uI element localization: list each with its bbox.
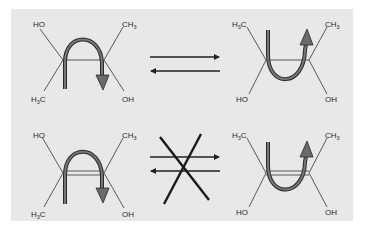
label-ch3: CH3: [122, 131, 137, 141]
rotation-arrow-icon: [268, 141, 313, 190]
label-ch3: CH3: [325, 131, 340, 141]
stereochemistry-diagram: HO CH3 H3C OH H3C CH3 HO OH: [0, 0, 366, 231]
cross-out-line: [160, 137, 209, 200]
rotation-arrow-icon: [65, 152, 109, 204]
row1-right-molecule: H3C CH3 HO OH: [232, 20, 340, 104]
label-oh: OH: [122, 95, 134, 104]
cross-out-line: [164, 134, 201, 204]
rotation-arrow-icon: [65, 40, 109, 91]
row1-left-molecule: HO CH3 H3C OH: [31, 20, 137, 105]
label-h3c: H3C: [31, 210, 46, 220]
label-h3c: H3C: [31, 95, 46, 105]
equilibrium-arrows: [150, 57, 220, 71]
label-ch3: CH3: [122, 20, 137, 30]
label-h3c: H3C: [232, 20, 247, 30]
label-h3c: H3C: [232, 131, 247, 141]
row2-right-molecule: H3C CH3 HO OH: [232, 131, 340, 217]
label-ho: HO: [33, 131, 45, 140]
label-ho: HO: [236, 208, 248, 217]
label-oh: OH: [325, 95, 337, 104]
label-oh: OH: [122, 210, 134, 219]
row2-left-molecule: HO CH3 H3C OH: [31, 131, 137, 220]
label-ch3: CH3: [325, 20, 340, 30]
label-ho: HO: [33, 20, 45, 29]
rotation-arrow-icon: [268, 29, 313, 79]
label-oh: OH: [325, 208, 337, 217]
label-ho: HO: [236, 95, 248, 104]
crossed-equilibrium-arrows: [150, 134, 220, 204]
